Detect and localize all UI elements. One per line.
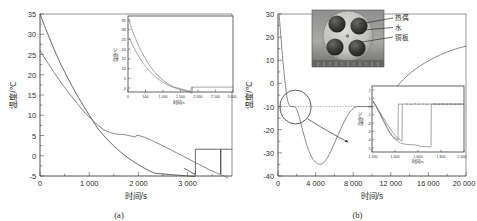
panel-b-inset-ytick-2: -3 — [367, 130, 370, 134]
panel-a-inset-ytick-1: 5 — [124, 76, 127, 81]
panel-a-inset-xtick-0: 0 — [127, 95, 129, 99]
panel-a-xtick-1: 1 000 — [80, 179, 99, 188]
panel-b-xtick-3: 12 000 — [379, 179, 402, 188]
panel-a-ytick-3: 10 — [28, 111, 36, 120]
panel-a-ytick-7: 30 — [28, 30, 36, 39]
figure-container: -5 0 5 10 15 20 25 30 35 0 1 000 2 000 3… — [0, 0, 477, 221]
photo-label-water: 水 — [395, 23, 402, 31]
panel-a-ytick-5: 20 — [28, 71, 36, 80]
panel-a-xtick-2: 2 000 — [129, 179, 148, 188]
panel-b-inset-ytick-7: 2 — [369, 89, 371, 93]
panel-a-xtick-0: 0 — [38, 179, 42, 188]
panel-b-ytick-6: 20 — [266, 33, 274, 42]
panel-a-inset-ytick-2: 10 — [121, 66, 126, 71]
panel-b-xtick-0: 0 — [276, 179, 280, 188]
panel-a-inset: 0 5 10 15 20 25 30 35 0 500 1 000 1 500 … — [112, 16, 236, 106]
panel-a-inset-ytick-6: 30 — [121, 27, 126, 32]
panel-b-inset: -5 -4 -3 -2 -1 0 1 2 1 200 1 400 1 600 1… — [357, 86, 466, 165]
panel-a-inset-ytick-5: 25 — [121, 37, 126, 42]
panel-b-xtick-5: 20 000 — [453, 179, 476, 188]
panel-b-ylabel: 温度/℃ — [244, 81, 254, 108]
panel-b-ytick-7: 30 — [266, 10, 274, 19]
panel-b-ytick-1: -30 — [263, 149, 274, 158]
panel-a: -5 0 5 10 15 20 25 30 35 0 1 000 2 000 3… — [0, 0, 238, 221]
panel-a-inset-ylabel: 温度/℃ — [112, 48, 119, 62]
panel-b-y-ticks: -40 -30 -20 -10 0 10 20 30 — [263, 10, 282, 181]
panel-b-inset-xtick-1: 1 400 — [391, 155, 400, 159]
panel-b: -40 -30 -20 -10 0 10 20 30 0 4 000 8 000… — [238, 0, 477, 221]
panel-a-inset-xtick-1: 500 — [143, 95, 149, 99]
panel-a-curve-sample1-tail — [185, 149, 232, 174]
panel-a-plot: -5 0 5 10 15 20 25 30 35 0 1 000 2 000 3… — [0, 0, 238, 221]
panel-a-xtick-3: 3 000 — [178, 179, 197, 188]
panel-b-inset-xtick-4: 2 000 — [458, 155, 467, 159]
photo-label-thermocouple: 热偶 — [395, 13, 409, 22]
panel-a-ytick-0: -5 — [29, 172, 36, 181]
panel-b-x-ticks: 0 4 000 8 000 12 000 16 000 20 000 — [276, 172, 475, 188]
panel-b-inset-ytick-1: -4 — [367, 138, 370, 142]
panel-a-ytick-6: 25 — [28, 51, 36, 60]
panel-a-inset-ytick-0: 0 — [124, 86, 127, 91]
panel-b-ytick-3: -10 — [263, 103, 274, 112]
panel-b-inset-ylabel: 温度/℃ — [357, 112, 364, 126]
panel-a-inset-xtick-3: 1 500 — [176, 95, 185, 99]
panel-a-ylabel: 温度/℃ — [8, 81, 18, 108]
panel-b-inset-ytick-3: -2 — [367, 122, 370, 126]
panel-a-inset-ytick-7: 35 — [121, 18, 126, 23]
panel-a-ytick-1: 0 — [32, 152, 36, 161]
panel-b-inset-xtick-3: 1 800 — [437, 155, 446, 159]
panel-a-x-ticks: 0 1 000 2 000 3 000 — [38, 172, 212, 188]
panel-b-callout-arrow — [308, 119, 348, 142]
panel-b-xlabel: 时间/s — [361, 191, 383, 201]
panel-b-inset-xtick-0: 1 200 — [369, 155, 378, 159]
panel-a-inset-ytick-4: 20 — [121, 47, 126, 52]
panel-a-inset-xtick-6: 3 000 — [228, 95, 237, 99]
panel-a-inset-xtick-2: 1 000 — [159, 95, 168, 99]
panel-a-xlabel: 时间/s — [125, 191, 147, 201]
panel-b-inset-ytick-6: 1 — [369, 97, 371, 101]
panel-b-ytick-2: -20 — [263, 126, 274, 135]
panel-b-caption: (b) — [238, 210, 477, 220]
panel-b-inset-xlabel: 时间/s — [412, 158, 424, 165]
panel-b-xtick-1: 4 000 — [306, 179, 325, 188]
panel-b-inset-ytick-4: -1 — [367, 113, 370, 117]
panel-a-caption: (a) — [0, 210, 238, 220]
panel-a-inset-xlabel: 时间/s — [173, 99, 185, 106]
panel-a-inset-xtick-4: 2 000 — [194, 95, 203, 99]
panel-b-xtick-2: 8 000 — [344, 179, 363, 188]
panel-b-ytick-5: 10 — [266, 56, 274, 65]
panel-a-ytick-4: 15 — [28, 91, 36, 100]
panel-a-inset-xtick-5: 2 500 — [211, 95, 220, 99]
panel-b-inset-ytick-5: 0 — [369, 105, 371, 109]
panel-b-photo-inset: 热偶 水 铜板 — [312, 10, 409, 67]
panel-a-ytick-8: 35 — [28, 10, 36, 19]
panel-b-ytick-0: -40 — [263, 172, 274, 181]
panel-b-inset-xtick-2: 1 600 — [414, 155, 423, 159]
panel-b-callout — [280, 90, 348, 142]
panel-b-plot: -40 -30 -20 -10 0 10 20 30 0 4 000 8 000… — [238, 0, 477, 221]
panel-b-inset-ytick-0: -5 — [367, 147, 370, 151]
panel-a-ytick-2: 5 — [32, 132, 36, 141]
photo-label-copperplate: 铜板 — [395, 33, 409, 42]
panel-b-ytick-4: 0 — [270, 79, 274, 88]
panel-a-y-ticks: -5 0 5 10 15 20 25 30 35 — [28, 10, 44, 181]
panel-a-inset-ytick-3: 15 — [121, 56, 126, 61]
panel-b-xtick-4: 16 000 — [417, 179, 440, 188]
